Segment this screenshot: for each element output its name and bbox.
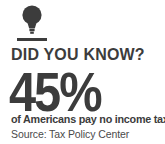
divider-rule (17, 38, 47, 41)
stat-caption: of Americans pay no income tax. (11, 113, 165, 126)
lightbulb-icon (17, 3, 47, 35)
source-attribution: Source: Tax Policy Center (11, 128, 129, 141)
did-you-know-infographic-card: DID YOU KNOW? 45% of Americans pay no in… (0, 0, 165, 144)
stat-value: 45% (9, 64, 101, 119)
